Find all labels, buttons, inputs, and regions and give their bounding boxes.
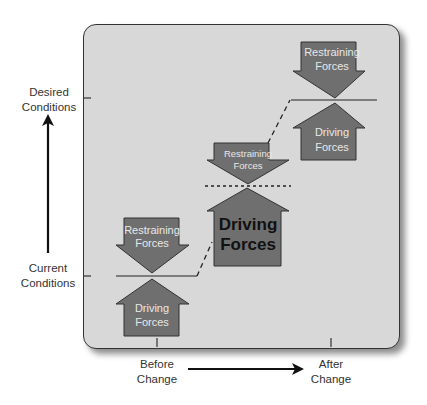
label-current-conditions: Current Conditions <box>21 261 75 291</box>
label-line: Change <box>137 372 177 387</box>
connector-before-during <box>197 242 212 276</box>
label-line: Before <box>137 357 177 372</box>
stage-during-change: Restraining Forces Driving Forces <box>205 143 291 266</box>
restraining-label-line1: Restraining <box>224 148 272 159</box>
driving-label-line1: Driving <box>315 126 349 138</box>
label-line: Desired <box>22 85 76 100</box>
restraining-label-line1: Restraining <box>124 224 180 236</box>
driving-label-line2: Forces <box>135 316 169 328</box>
label-after-change: After Change <box>311 357 351 387</box>
driving-label-line2: Forces <box>220 235 276 254</box>
axis-ticks <box>83 98 331 347</box>
driving-label-line1: Driving <box>219 215 278 234</box>
label-line: Change <box>311 372 351 387</box>
label-before-change: Before Change <box>137 357 177 387</box>
label-desired-conditions: Desired Conditions <box>22 85 76 115</box>
restraining-label-line2: Forces <box>315 60 349 72</box>
label-line: Conditions <box>21 276 75 291</box>
stage-after-change: Restraining Forces Driving Forces <box>291 42 377 160</box>
restraining-label-line1: Restraining <box>304 46 360 58</box>
force-field-diagram: Restraining Forces Driving Forces Restra… <box>0 0 427 405</box>
driving-label-line1: Driving <box>135 302 169 314</box>
label-line: Conditions <box>22 100 76 115</box>
label-line: Current <box>21 261 75 276</box>
driving-label-line2: Forces <box>315 141 349 153</box>
restraining-label-line2: Forces <box>233 160 262 171</box>
label-line: After <box>311 357 351 372</box>
restraining-label-line2: Forces <box>135 237 169 249</box>
connector-during-after <box>268 100 290 143</box>
stage-before-change: Restraining Forces Driving Forces <box>116 218 197 336</box>
